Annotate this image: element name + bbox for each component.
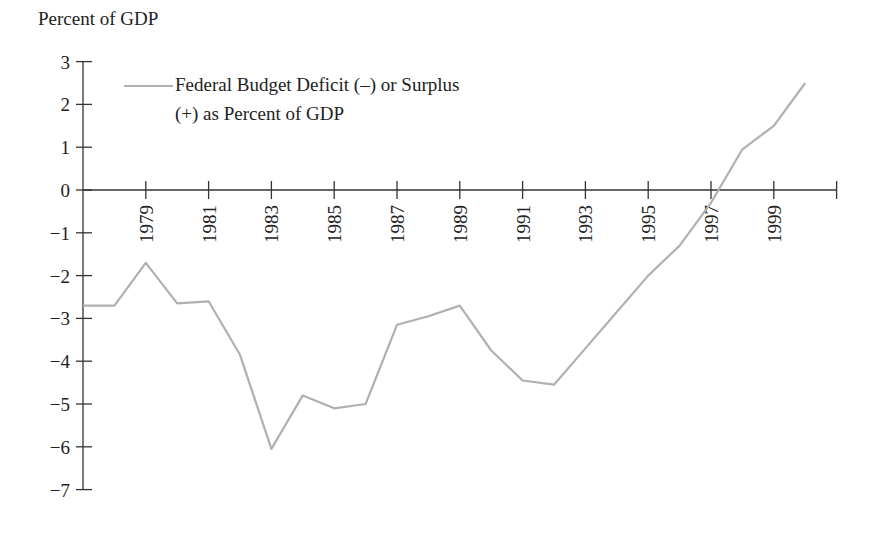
y-tick-label: −4 (50, 351, 71, 372)
y-tick-label: 3 (61, 52, 71, 73)
line-chart: 3210−1−2−3−4−5−6−71979198119831985198719… (0, 0, 883, 541)
series-line (83, 83, 805, 449)
y-tick-label: 0 (61, 180, 71, 201)
y-tick-label: −6 (50, 437, 70, 458)
y-tick-label: −2 (50, 266, 70, 287)
x-tick-label: 1985 (324, 205, 345, 243)
x-tick-label: 1991 (513, 205, 534, 243)
x-tick-label: 1995 (638, 205, 659, 243)
y-tick-label: −5 (50, 394, 70, 415)
x-tick-label: 1987 (387, 205, 408, 243)
y-tick-label: 1 (61, 137, 71, 158)
y-tick-label: −3 (50, 308, 70, 329)
x-tick-label: 1993 (575, 205, 596, 243)
x-tick-label: 1979 (136, 205, 157, 243)
data-series (83, 83, 805, 449)
x-tick-label: 1981 (199, 205, 220, 243)
y-tick-label: 2 (61, 94, 71, 115)
x-tick-label: 1999 (764, 205, 785, 243)
x-tick-label: 1983 (261, 205, 282, 243)
y-tick-label: −1 (50, 223, 70, 244)
y-tick-label: −7 (50, 480, 70, 501)
axes: 3210−1−2−3−4−5−6−71979198119831985198719… (50, 52, 837, 501)
x-tick-label: 1989 (450, 205, 471, 243)
